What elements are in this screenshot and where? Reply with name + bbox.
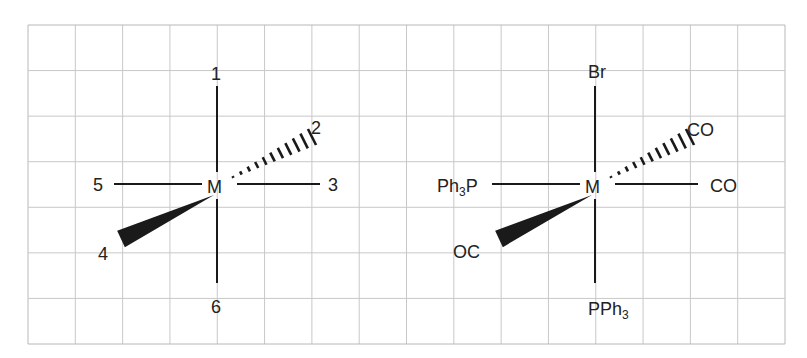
label-position-1: 1 (211, 65, 221, 83)
ligand-hashed-co: CO (687, 121, 714, 139)
label-position-3: 3 (328, 176, 338, 194)
label-metal-generic: M (207, 178, 222, 196)
ligand-right-co: CO (710, 177, 737, 195)
ligand-bottom-pph: PPh (588, 299, 622, 319)
ligand-wedge-oc: OC (453, 243, 480, 261)
ligand-left-p: P (466, 176, 478, 196)
diagram-canvas (0, 0, 807, 358)
label-position-6: 6 (211, 298, 221, 316)
ligand-left-pph3: Ph3P (437, 177, 478, 198)
label-position-5: 5 (93, 176, 103, 194)
ligand-bottom-pph3: PPh3 (588, 300, 629, 321)
ligand-left-ph: Ph (437, 176, 459, 196)
ligand-top-br: Br (588, 63, 606, 81)
label-position-4: 4 (98, 245, 108, 263)
ligand-left-subscript: 3 (459, 185, 466, 199)
label-position-2: 2 (311, 119, 321, 137)
ligand-bottom-subscript: 3 (622, 308, 629, 322)
label-metal-complex: M (585, 178, 600, 196)
